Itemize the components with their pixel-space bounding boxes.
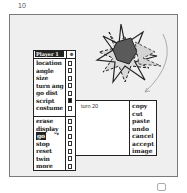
checkbox[interactable] bbox=[68, 61, 72, 66]
checkbox[interactable] bbox=[68, 91, 72, 96]
menu-item-size[interactable]: size bbox=[35, 74, 75, 82]
eye-icon[interactable]: ⊕ bbox=[66, 51, 76, 58]
checkbox[interactable] bbox=[68, 106, 72, 111]
menu-item-go-dist[interactable]: go dist bbox=[35, 89, 75, 97]
menu-item-script[interactable]: script bbox=[35, 97, 75, 105]
checkbox[interactable] bbox=[68, 164, 72, 169]
menu-item-angle[interactable]: angle bbox=[35, 67, 75, 75]
menu-item-stop[interactable]: stop bbox=[35, 140, 75, 148]
menu-item-label: location bbox=[36, 59, 62, 67]
checkbox[interactable] bbox=[68, 134, 72, 139]
checkbox[interactable] bbox=[68, 119, 72, 124]
menu-item-label: erase bbox=[36, 117, 53, 125]
menu-item-location[interactable]: location bbox=[35, 59, 75, 67]
player-menu: Player 1 ⊕ location angle size turn ang … bbox=[33, 50, 76, 171]
corner-box-icon bbox=[157, 183, 166, 191]
menu-item-reset[interactable]: reset bbox=[35, 147, 75, 155]
script-editor[interactable]: turn 20 bbox=[81, 103, 98, 109]
menu-item-label: turn ang bbox=[36, 82, 64, 90]
checkbox[interactable] bbox=[68, 68, 72, 73]
menu-item-copy[interactable]: copy bbox=[132, 102, 147, 109]
menu-item-label: costume bbox=[36, 104, 63, 112]
menu-item-label: twin bbox=[36, 155, 50, 163]
checkbox[interactable] bbox=[68, 149, 72, 154]
checkbox[interactable] bbox=[68, 83, 72, 88]
menu-item-label: angle bbox=[36, 67, 54, 75]
checkbox[interactable] bbox=[68, 126, 72, 131]
menu-item-label: reset bbox=[36, 147, 52, 155]
checkbox[interactable] bbox=[68, 76, 72, 81]
menu-item-label: script bbox=[36, 97, 54, 105]
menu-item-label: go dist bbox=[36, 89, 58, 97]
menu-item-cut[interactable]: cut bbox=[132, 110, 143, 117]
menu-item-image[interactable]: image bbox=[132, 147, 153, 154]
page-number: 10 bbox=[18, 2, 26, 9]
checkbox[interactable] bbox=[68, 141, 72, 146]
player-menu-title[interactable]: Player 1 bbox=[35, 51, 64, 57]
menu-item-twin[interactable]: twin bbox=[35, 155, 75, 163]
player-menu-header: Player 1 ⊕ bbox=[34, 51, 75, 59]
checkbox-checked[interactable] bbox=[68, 98, 72, 103]
menu-item-erase[interactable]: erase bbox=[35, 117, 75, 125]
menu-item-more[interactable]: more bbox=[35, 162, 75, 170]
script-edit-menu: copy cut paste undo cancel accept image bbox=[129, 101, 157, 155]
rotating-star-sprite[interactable] bbox=[95, 22, 175, 97]
menu-item-label-selected: go bbox=[36, 132, 46, 140]
menu-item-accept[interactable]: accept bbox=[132, 140, 154, 147]
menu-item-costume[interactable]: costume bbox=[35, 104, 75, 112]
menu-item-label: stop bbox=[36, 140, 50, 148]
menu-item-paste[interactable]: paste bbox=[132, 117, 150, 124]
script-panel: turn 20 copy cut paste undo cancel accep… bbox=[75, 100, 157, 156]
checkbox[interactable] bbox=[68, 156, 72, 161]
menu-item-label: more bbox=[36, 162, 53, 170]
menu-item-undo[interactable]: undo bbox=[132, 125, 149, 132]
menu-item-label: size bbox=[36, 74, 48, 82]
menu-item-cancel[interactable]: cancel bbox=[132, 132, 154, 139]
menu-item-turn-ang[interactable]: turn ang bbox=[35, 82, 75, 90]
